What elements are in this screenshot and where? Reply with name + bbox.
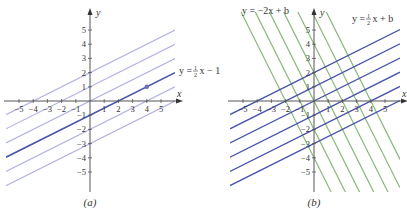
y-tick-label: −1	[301, 110, 310, 120]
svg-text:x − 1: x − 1	[200, 65, 221, 76]
y-tick-label: 4	[82, 39, 87, 49]
x-tick-label: 4	[145, 104, 150, 114]
y-tick-label: 1	[82, 82, 86, 92]
y-tick-label: −2	[77, 124, 86, 134]
x-tick-label: 1	[326, 104, 330, 114]
y-tick-label: −1	[77, 110, 86, 120]
y-tick-label: 1	[306, 82, 310, 92]
x-tick-label: 5	[383, 104, 387, 114]
x-tick-label: 3	[130, 104, 134, 114]
x-tick-label: 5	[159, 104, 163, 114]
equation-label-green: y = −2x + b	[242, 5, 289, 16]
x-tick-label: −3	[267, 104, 276, 114]
equation-label-blue: y =	[352, 13, 366, 24]
y-tick-label: 5	[82, 25, 86, 35]
y-tick-label: 3	[306, 53, 310, 63]
x-axis-label: x	[401, 88, 407, 99]
x-tick-label: −2	[57, 104, 66, 114]
y-tick-label: 4	[306, 39, 311, 49]
y-tick-label: −2	[301, 124, 310, 134]
y-tick-label: 5	[306, 25, 310, 35]
x-tick-label: −3	[43, 104, 52, 114]
panel-caption: (b)	[308, 196, 321, 209]
y-tick-label: −5	[77, 167, 86, 177]
x-tick-label: 2	[340, 104, 344, 114]
y-tick-label: −5	[301, 167, 310, 177]
x-tick-label: 3	[354, 104, 358, 114]
y-tick-label: −4	[301, 153, 311, 163]
panel-caption: (a)	[84, 196, 97, 209]
chart-canvas: xy−5−4−3−2−112345−5−4−3−2−112345y = 12x …	[0, 0, 407, 212]
x-tick-label: −4	[253, 104, 263, 114]
y-axis-label: y	[319, 7, 325, 18]
x-axis-arrow-icon	[176, 99, 183, 104]
line-blue	[230, 44, 400, 129]
x-tick-label: −5	[14, 104, 23, 114]
x-axis-arrow-icon	[401, 99, 407, 104]
x-tick-label: −2	[281, 104, 290, 114]
svg-text:2: 2	[367, 20, 370, 26]
y-axis-label: y	[95, 7, 101, 18]
svg-text:2: 2	[194, 72, 197, 78]
y-tick-label: −3	[77, 139, 86, 149]
x-tick-label: 1	[102, 104, 106, 114]
panel-b: xy−5−4−3−2−112345−5−4−3−2−112345y = −2x …	[228, 0, 407, 212]
data-point	[145, 85, 150, 90]
svg-text:x + b: x + b	[373, 13, 394, 24]
y-axis-arrow-icon	[312, 8, 317, 15]
svg-text:1: 1	[367, 13, 370, 19]
svg-text:1: 1	[194, 65, 197, 71]
y-tick-label: 2	[82, 68, 86, 78]
figure: xy−5−4−3−2−112345−5−4−3−2−112345y = 12x …	[0, 0, 407, 212]
x-tick-label: 4	[369, 104, 374, 114]
equation-label: y =	[179, 65, 193, 76]
x-tick-label: −5	[238, 104, 247, 114]
y-tick-label: 3	[82, 53, 86, 63]
y-tick-label: 2	[306, 68, 310, 78]
y-axis-arrow-icon	[88, 8, 93, 15]
panel-a: xy−5−4−3−2−112345−5−4−3−2−112345y = 12x …	[4, 7, 220, 209]
x-tick-label: −4	[29, 104, 39, 114]
line-blue	[230, 72, 400, 157]
y-tick-label: −4	[77, 153, 87, 163]
x-tick-label: 2	[116, 104, 120, 114]
y-tick-label: −3	[301, 139, 310, 149]
x-axis-label: x	[176, 88, 182, 99]
